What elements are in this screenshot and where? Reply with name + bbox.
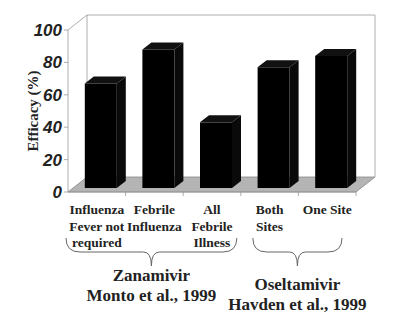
- bar: [315, 49, 356, 188]
- y-axis-label: Efficacy (%): [25, 70, 42, 151]
- group-label: ZanamivirMonto et al., 1999: [86, 266, 216, 305]
- bar-front: [258, 67, 290, 188]
- category-label-line: Both: [256, 202, 284, 217]
- category-label-line: Febrile: [191, 219, 232, 234]
- bar-side: [117, 76, 126, 188]
- group-label-line: Havden et al., 1999: [228, 295, 366, 314]
- y-tick-label: 80: [43, 53, 62, 72]
- group-label-line: Oseltamivir: [254, 275, 340, 294]
- bar: [258, 60, 299, 188]
- category-label-line: Illness: [194, 235, 231, 250]
- y-tick-label: 100: [34, 21, 63, 40]
- category-label-line: Influenza: [69, 202, 124, 217]
- bar-side: [347, 49, 356, 188]
- category-label: InfluenzaFever notrequired: [69, 202, 124, 250]
- category-label-line: Febrile: [134, 202, 175, 217]
- y-tick-label: 40: [42, 118, 62, 137]
- bar: [85, 76, 126, 188]
- category-label: FebrileInfluenza: [127, 202, 182, 234]
- bar: [142, 42, 183, 188]
- category-label: BothSites: [256, 202, 284, 234]
- bar-side: [290, 60, 299, 188]
- category-label-line: All: [203, 202, 221, 217]
- y-tick-label: 20: [42, 151, 62, 170]
- group-label: OseltamivirHavden et al., 1999: [228, 275, 366, 314]
- bar-front: [200, 122, 232, 188]
- category-label-line: required: [72, 235, 122, 250]
- bar-side: [232, 115, 241, 188]
- category-label-line: Sites: [256, 219, 283, 234]
- bar-chart: 020406080100 Efficacy (%) InfluenzaFever…: [0, 0, 396, 320]
- y-tick-label: 60: [43, 86, 62, 105]
- group-label-line: Zanamivir: [113, 266, 191, 285]
- bar-front: [85, 83, 117, 188]
- category-label: One Site: [303, 202, 352, 217]
- bar-side: [174, 42, 183, 188]
- y-tick-label: 0: [53, 183, 63, 202]
- group-brace: [253, 238, 342, 266]
- side-wall-top-edge: [68, 15, 87, 30]
- category-label-line: Fever not: [69, 219, 124, 234]
- group-label-line: Monto et al., 1999: [86, 286, 216, 305]
- category-label: AllFebrileIllness: [191, 202, 232, 250]
- bar-front: [315, 56, 347, 188]
- category-label-line: One Site: [303, 202, 352, 217]
- category-label-line: Influenza: [127, 219, 182, 234]
- bar-front: [142, 49, 174, 188]
- bar: [200, 115, 241, 188]
